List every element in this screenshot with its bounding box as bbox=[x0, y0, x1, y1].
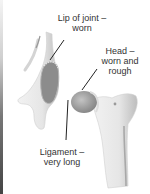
leader-line-head bbox=[82, 69, 97, 90]
label-head-line3: rough bbox=[96, 66, 144, 76]
label-lip-line2: worn bbox=[54, 23, 110, 33]
label-head-line1: Head – bbox=[96, 46, 144, 56]
leader-line-ligament bbox=[66, 100, 68, 140]
femur-bone bbox=[92, 94, 137, 188]
label-ligament-line2: very long bbox=[36, 157, 88, 167]
label-lip-line1: Lip of joint – bbox=[54, 13, 110, 23]
label-head-line2: worn and bbox=[96, 56, 144, 66]
label-ligament-line1: Ligament – bbox=[36, 147, 88, 157]
label-head: Head – worn and rough bbox=[96, 46, 144, 76]
label-ligament: Ligament – very long bbox=[36, 147, 88, 167]
label-lip-of-joint: Lip of joint – worn bbox=[54, 13, 110, 33]
